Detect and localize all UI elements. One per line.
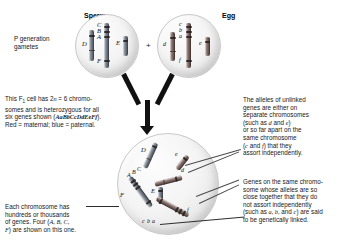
linked-line1: Genes on the same chromo- bbox=[243, 178, 323, 185]
f1-gene-label-c: c bbox=[142, 218, 145, 224]
f1-gene-label-C: C bbox=[137, 166, 141, 172]
unlinked-line4-c: ) bbox=[289, 119, 291, 126]
p-generation-line1: P generation bbox=[14, 35, 50, 42]
band bbox=[158, 190, 164, 192]
p-generation-line2: gametes bbox=[14, 43, 38, 50]
band bbox=[186, 26, 192, 28]
linked-line4: not assort independently bbox=[243, 201, 312, 208]
unlinked-line4-b: and bbox=[272, 119, 286, 126]
each-chr-genes: A, B, C, bbox=[49, 218, 69, 225]
sperm-chromosome-e bbox=[123, 36, 128, 56]
f1-desc-line2: somes and is heterozygous for all bbox=[5, 106, 99, 113]
f1-gene-label-e: e bbox=[175, 151, 178, 157]
band bbox=[104, 36, 110, 38]
callout-each-chromosome: Each chromosome has hundreds or thousand… bbox=[5, 203, 133, 233]
egg-gene-label-a: a bbox=[179, 33, 182, 39]
f1-desc-line4: Red = maternal; blue = paternal. bbox=[5, 121, 95, 128]
f1-gene-label-A: A bbox=[127, 172, 131, 178]
sperm-chromosome-abcf bbox=[104, 23, 109, 68]
f1-gene-label-F: F bbox=[120, 191, 124, 198]
band bbox=[170, 51, 176, 52]
egg-gene-label-e: e bbox=[199, 40, 202, 46]
unlinked-line8: assort independently. bbox=[243, 149, 302, 156]
band bbox=[104, 31, 110, 33]
f1-desc-line1-c: = 6 chromo- bbox=[57, 95, 93, 102]
sperm-gene-label-E: E bbox=[116, 39, 120, 46]
unlinked-line1: The alleles of unlinked bbox=[243, 96, 306, 103]
f1-genotype: AaBbCcDdEeFf bbox=[55, 113, 97, 120]
callout-unlinked-genes: The alleles of unlinked genes are either… bbox=[243, 96, 341, 157]
f1-gene-label-D: D bbox=[141, 146, 146, 153]
band bbox=[186, 31, 192, 33]
f1-gene-label-b: b bbox=[147, 218, 150, 224]
egg-header: Egg bbox=[222, 12, 235, 19]
egg-arrow-stem bbox=[155, 73, 175, 106]
band bbox=[89, 50, 95, 51]
each-chr-line1: Each chromosome has bbox=[5, 203, 69, 210]
f1-desc-line1-b: cell has 2 bbox=[25, 95, 53, 102]
fertilization-arrow-stem bbox=[145, 100, 150, 128]
band bbox=[123, 40, 129, 42]
f1-desc-line1-a: This F bbox=[5, 95, 23, 102]
f1-gene-label-B: B bbox=[132, 169, 136, 175]
linked-line2: some whose alleles are so bbox=[243, 186, 317, 193]
leader-each-chromosome bbox=[86, 206, 119, 207]
egg-chromosome-d bbox=[170, 32, 175, 61]
band bbox=[104, 60, 110, 62]
band bbox=[186, 60, 192, 62]
unlinked-line7-b: and bbox=[248, 142, 262, 149]
f1-desc-line3-b: ). bbox=[97, 113, 101, 120]
callout-f1-description: This F1 cell has 2n = 6 chromo- somes an… bbox=[5, 95, 133, 129]
linked-genes-ab: a, b, bbox=[269, 208, 280, 215]
each-chr-line4-b: ) are shown on this one. bbox=[9, 226, 76, 233]
band bbox=[104, 26, 110, 28]
linked-line5-c: ) are said bbox=[296, 208, 322, 215]
sperm-gamete-cell: D C B A F E bbox=[75, 14, 139, 78]
sperm-gene-label-D: D bbox=[82, 40, 87, 47]
unlinked-line6: same chromosome bbox=[243, 134, 297, 141]
unlinked-line5: or so far apart on the bbox=[243, 126, 301, 133]
band bbox=[170, 37, 176, 39]
f1-gene-label-d: d bbox=[181, 167, 184, 173]
linked-line5-b: and bbox=[280, 208, 294, 215]
egg-gamete-cell: d c b a f e bbox=[157, 14, 221, 78]
f1-desc-line3-a: six genes shown ( bbox=[5, 113, 55, 120]
band bbox=[205, 41, 211, 43]
f1-gene-label-a: a bbox=[152, 218, 155, 224]
sperm-gene-label-F: F bbox=[97, 57, 101, 64]
unlinked-line7-c: ) that they bbox=[264, 142, 292, 149]
linked-line3: close together that they do bbox=[243, 193, 317, 200]
f1-chromosome-d bbox=[154, 175, 182, 187]
egg-chromosome-e bbox=[205, 37, 210, 56]
each-chr-line2: hundreds or thousands bbox=[5, 211, 69, 218]
f1-gene-label-E: E bbox=[151, 187, 155, 194]
sperm-chromosome-d bbox=[89, 30, 94, 61]
fertilization-arrow-head bbox=[140, 126, 154, 135]
callout-linked-genes: Genes on the same chromo- some whose all… bbox=[243, 178, 341, 224]
unlinked-line4-a: (such as bbox=[243, 119, 269, 126]
plus-symbol: + bbox=[146, 42, 151, 50]
unlinked-line2: genes are either on bbox=[243, 104, 297, 111]
unlinked-line3: separate chromosomes bbox=[243, 111, 309, 118]
linked-line5-a: (such as bbox=[243, 208, 269, 215]
each-chr-line3-a: of genes. Four ( bbox=[5, 218, 49, 225]
f1-gene-label-f: f bbox=[187, 207, 189, 213]
figure-canvas: Sperm P generation gametes D C B A F E bbox=[0, 0, 341, 252]
linked-line6: to be genetically linked. bbox=[243, 216, 308, 223]
f1-chromosome-abcf bbox=[155, 196, 189, 217]
egg-gene-label-f: f bbox=[179, 57, 181, 63]
band bbox=[89, 35, 95, 37]
p-generation-label: P generation gametes bbox=[14, 35, 74, 50]
sperm-gene-label-A: A bbox=[97, 33, 101, 40]
egg-gene-label-d: d bbox=[163, 41, 166, 47]
egg-chromosome-abcf bbox=[186, 23, 191, 68]
band bbox=[186, 36, 192, 38]
